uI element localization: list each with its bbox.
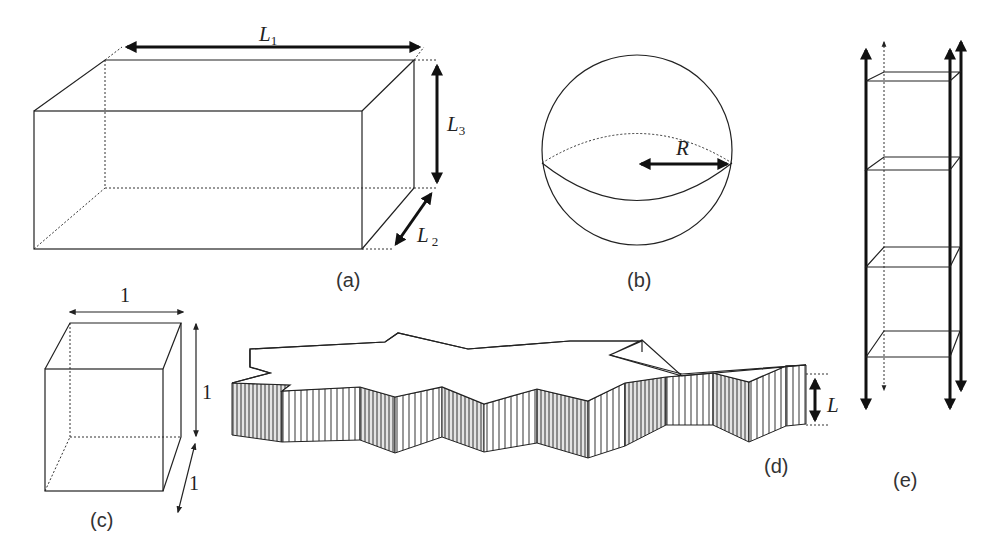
side-wall-left <box>232 383 290 442</box>
side-wall <box>395 387 442 453</box>
panel-a-box: L1 L3 L2 (a) <box>34 22 465 291</box>
equator-front-arc <box>542 163 732 201</box>
hidden-edge <box>34 188 105 249</box>
panel-c-cube: 1 1 1 (c) <box>45 284 212 531</box>
cube-right-edges <box>163 323 181 491</box>
top-face-edges <box>34 60 414 111</box>
caption-c: (c) <box>90 509 113 531</box>
radius-label: R <box>675 136 689 160</box>
slice-planes <box>866 72 960 357</box>
l3-label: L3 <box>446 112 465 138</box>
side-wall <box>713 373 749 442</box>
sphere-outline <box>542 55 732 245</box>
side-wall <box>666 373 713 425</box>
caption-d: (d) <box>764 455 788 477</box>
cube-top-edges <box>45 323 181 369</box>
caption-a: (a) <box>336 269 360 291</box>
side-wall-right <box>786 365 806 426</box>
width-label: 1 <box>120 284 130 306</box>
cube-front-face <box>45 369 163 491</box>
extension-line <box>414 47 424 60</box>
slice-plane <box>866 157 960 170</box>
hidden-edge <box>45 437 70 491</box>
panel-e-column: (e) <box>866 42 961 491</box>
geometry-figure: L1 L3 L2 (a) R (b) 1 1 1 (c) <box>0 0 994 541</box>
caption-e: (e) <box>893 469 917 491</box>
panel-b-sphere: R (b) <box>542 55 732 291</box>
slice-plane <box>866 331 960 357</box>
l1-label: L1 <box>258 22 277 48</box>
slice-plane <box>866 72 960 81</box>
side-wall <box>625 377 666 446</box>
right-face-edges <box>362 60 414 249</box>
extension-line <box>105 47 122 60</box>
l2-label: L2 <box>416 223 438 249</box>
height-label: 1 <box>202 381 212 403</box>
front-face <box>34 111 362 249</box>
side-wall <box>360 387 395 453</box>
panel-d-star-slab: L (d) <box>232 333 839 477</box>
caption-b: (b) <box>627 269 651 291</box>
depth-label: 1 <box>189 472 199 494</box>
equator-back-arc <box>542 134 732 164</box>
slice-plane <box>866 247 960 267</box>
thickness-label: L <box>826 393 839 417</box>
side-wall <box>282 387 360 442</box>
